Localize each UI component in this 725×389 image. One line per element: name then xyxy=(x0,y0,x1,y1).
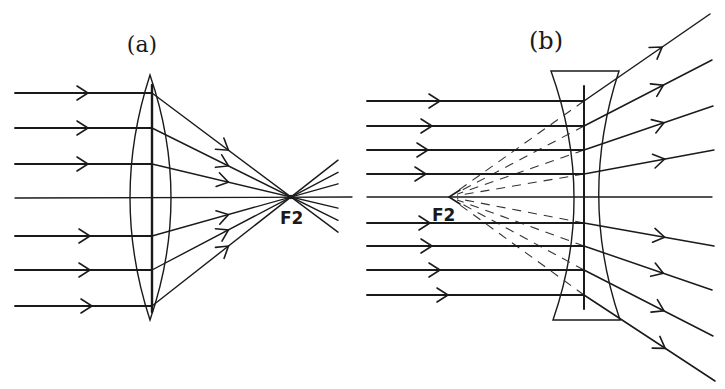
refracted-ray-b xyxy=(584,60,712,126)
panel-a-focal-point xyxy=(289,195,293,199)
refracted-ray-a xyxy=(152,172,338,270)
panel-a-convex-lens: (a) F2 xyxy=(15,32,352,320)
panel-b-rays xyxy=(367,14,715,381)
refracted-ray-b xyxy=(584,150,714,174)
refracted-ray-a xyxy=(152,164,338,208)
refracted-ray-a xyxy=(152,184,338,236)
panel-a-caption: (a) xyxy=(127,32,157,57)
panel-a-focal-label: F2 xyxy=(280,208,303,228)
refracted-ray-a xyxy=(152,128,338,220)
panel-b-focal-label: F2 xyxy=(432,205,455,225)
panel-b-virtual-extensions xyxy=(457,101,584,295)
panel-b-concave-lens: (b) F2 xyxy=(367,14,715,381)
refracted-ray-a xyxy=(152,160,338,306)
virtual-ray-extension xyxy=(457,199,584,223)
panel-b-caption: (b) xyxy=(529,27,563,55)
refracted-ray-b xyxy=(584,270,713,336)
panel-a-rays xyxy=(15,86,352,313)
refracted-ray-b xyxy=(584,295,715,381)
virtual-ray-extension xyxy=(457,201,584,270)
virtual-ray-extension xyxy=(457,126,584,193)
refracted-ray-b xyxy=(584,14,710,101)
refracted-ray-b xyxy=(584,106,713,150)
refracted-ray-b xyxy=(584,223,714,246)
virtual-ray-extension xyxy=(457,150,584,194)
optical-axis-a xyxy=(15,197,352,198)
refracted-ray-a xyxy=(152,93,338,232)
virtual-ray-extension xyxy=(457,203,584,295)
lens-diagram: (a) F2 (b) F2 xyxy=(0,0,725,389)
refracted-ray-b xyxy=(584,246,712,290)
